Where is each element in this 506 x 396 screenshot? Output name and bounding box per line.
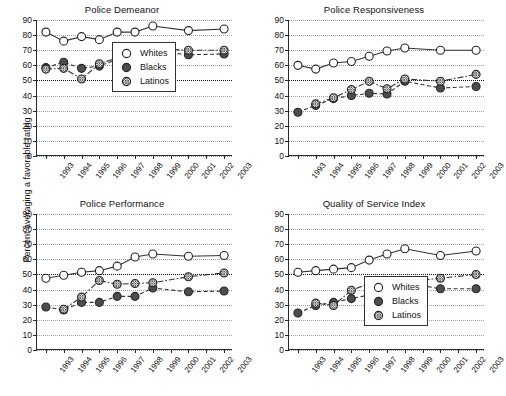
- data-point-marker: [220, 287, 228, 295]
- data-point-marker: [472, 70, 480, 78]
- data-point-marker: [401, 245, 409, 253]
- data-point-marker: [401, 75, 409, 83]
- data-point-marker: [131, 253, 139, 261]
- data-point-marker: [347, 58, 355, 66]
- y-tick-label: 20: [23, 315, 37, 325]
- y-tick-label: 90: [275, 15, 289, 25]
- x-tick-label: 2002: [470, 355, 488, 375]
- y-tick-label: 50: [23, 75, 37, 85]
- x-tick-label: 1996: [111, 355, 129, 375]
- data-point-marker: [113, 280, 121, 288]
- y-tick-label: 70: [23, 239, 37, 249]
- data-point-marker: [131, 28, 139, 36]
- data-point-marker: [330, 301, 338, 309]
- data-point-marker: [78, 33, 86, 41]
- legend-item-blacks: Blacks: [117, 60, 169, 74]
- y-tick-label: 30: [275, 106, 289, 116]
- legend-label: Latinos: [135, 76, 169, 86]
- data-point-marker: [78, 64, 86, 72]
- data-point-marker: [42, 28, 50, 36]
- x-tick-label: 2000: [434, 355, 452, 375]
- x-tick-label: 2001: [452, 161, 470, 181]
- legend-item-whites: Whites: [369, 280, 421, 294]
- data-point-marker: [312, 267, 320, 275]
- x-tick-label: 1997: [129, 355, 147, 375]
- data-point-marker: [60, 305, 68, 313]
- data-point-marker: [347, 264, 355, 272]
- data-point-marker: [78, 293, 86, 301]
- filled-circle-marker: [117, 61, 135, 73]
- x-tick-label: 1996: [363, 355, 381, 375]
- y-tick-label: 60: [275, 60, 289, 70]
- y-tick-label: 0: [279, 151, 289, 161]
- y-tick-label: 70: [275, 239, 289, 249]
- data-point-marker: [330, 59, 338, 67]
- series-markers-latinos: [60, 269, 228, 313]
- x-tick-label: 2003: [488, 355, 506, 375]
- series-markers-whites: [42, 250, 228, 282]
- y-tick-label: 0: [279, 345, 289, 355]
- data-point-marker: [220, 252, 228, 260]
- data-point-marker: [436, 274, 444, 282]
- x-tick-label: 1999: [165, 355, 183, 375]
- panel-police-responsiveness: Police Responsiveness 010203040506070809…: [256, 4, 492, 196]
- x-tick-label: 2003: [236, 161, 254, 181]
- y-tick-label: 90: [23, 209, 37, 219]
- data-point-marker: [113, 292, 121, 300]
- legend-item-latinos: Latinos: [369, 308, 421, 322]
- x-tick-label: 1993: [58, 161, 76, 181]
- y-tick-label: 30: [23, 106, 37, 116]
- legend-label: Whites: [387, 282, 420, 292]
- data-point-marker: [220, 25, 228, 33]
- y-tick-label: 0: [27, 345, 37, 355]
- data-point-marker: [184, 288, 192, 296]
- x-tick-label: 1996: [111, 161, 129, 181]
- figure-root: Percent averaging a favorable rating Pol…: [0, 0, 506, 396]
- data-point-marker: [383, 250, 391, 258]
- data-point-marker: [131, 292, 139, 300]
- legend-label: Whites: [135, 48, 168, 58]
- y-tick-label: 80: [275, 224, 289, 234]
- data-point-marker: [436, 252, 444, 260]
- x-tick-label: 1997: [381, 161, 399, 181]
- y-tick-label: 40: [275, 91, 289, 101]
- x-tick-label: 1994: [328, 355, 346, 375]
- x-tick-label: 1994: [76, 355, 94, 375]
- data-point-marker: [149, 250, 157, 258]
- panel-title: Quality of Service Index: [256, 198, 492, 209]
- y-tick-label: 10: [275, 330, 289, 340]
- x-tick-label: 1998: [147, 161, 165, 181]
- x-tick-label: 1998: [399, 161, 417, 181]
- x-tick-label: 2003: [488, 161, 506, 181]
- x-tick-label: 2000: [182, 355, 200, 375]
- data-point-marker: [330, 265, 338, 273]
- panel-quality-of-service-index: Quality of Service Index 010203040506070…: [256, 198, 492, 390]
- series-markers-blacks: [294, 77, 480, 116]
- x-tick-label: 1996: [363, 161, 381, 181]
- x-tick-label: 1998: [147, 355, 165, 375]
- y-tick-label: 60: [23, 254, 37, 264]
- y-tick-label: 50: [23, 269, 37, 279]
- data-point-marker: [312, 299, 320, 307]
- plot-area: 0102030405060708090199319941995199619971…: [288, 20, 484, 156]
- data-point-marker: [294, 61, 302, 69]
- panel-police-performance: Police Performance 010203040506070809019…: [4, 198, 240, 390]
- y-tick-label: 60: [23, 60, 37, 70]
- y-tick-label: 50: [275, 75, 289, 85]
- data-point-marker: [60, 271, 68, 279]
- panel-title: Police Responsiveness: [256, 4, 492, 15]
- data-point-marker: [294, 309, 302, 317]
- data-point-marker: [347, 295, 355, 303]
- data-point-marker: [365, 89, 373, 97]
- x-tick-label: 1999: [417, 355, 435, 375]
- y-tick-label: 50: [275, 269, 289, 279]
- x-tick-label: 2001: [200, 161, 218, 181]
- data-point-marker: [401, 44, 409, 52]
- data-point-marker: [113, 28, 121, 36]
- data-point-marker: [312, 65, 320, 73]
- y-tick-label: 20: [275, 121, 289, 131]
- data-point-marker: [184, 273, 192, 281]
- data-point-marker: [330, 94, 338, 102]
- panel-police-demeanor: Police Demeanor 010203040506070809019931…: [4, 4, 240, 196]
- series-layer: [37, 214, 233, 350]
